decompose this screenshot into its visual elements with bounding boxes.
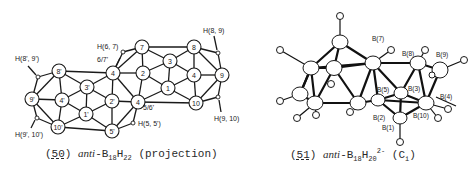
node-8: 8 [187, 40, 201, 54]
caption-51-prefix: anti [323, 148, 340, 160]
caption-50-b-sub: 18 [108, 154, 116, 162]
svg-text:3': 3' [84, 84, 89, 91]
caption-50-suffix: (projection) [138, 148, 217, 160]
label-b3: B(3) [408, 85, 420, 93]
label-h-8-9: H(8, 9) [203, 27, 224, 35]
hydrogen-atoms [277, 13, 468, 146]
node-10p: 10' [51, 120, 65, 134]
label-h-8p-9p: H(8', 9') [15, 55, 39, 63]
svg-text:2': 2' [109, 98, 114, 105]
label-h-9-10: H(9, 10) [214, 115, 239, 123]
node-9p: 9' [25, 92, 39, 106]
label-h-9p-10p: H(9', 10') [15, 131, 43, 139]
caption-51-h-sub: 20 [368, 155, 376, 163]
svg-text:10: 10 [192, 100, 200, 107]
label-b8: B(8) [402, 50, 414, 58]
svg-text:2: 2 [141, 70, 145, 77]
caption-51-close: ) [409, 149, 416, 161]
h-9-10-atom [216, 95, 220, 99]
svg-text:4: 4 [192, 72, 196, 79]
label-h-6-7: H(6, 7) [97, 43, 118, 51]
label-6-7p: 6/7' [97, 56, 108, 63]
svg-text:10': 10' [53, 124, 62, 131]
label-b4: B(4) [440, 93, 452, 101]
caption-51-charge: 2- [377, 147, 385, 155]
node-3: 3 [163, 54, 177, 68]
svg-text:7: 7 [140, 44, 144, 51]
svg-text:9: 9 [220, 72, 224, 79]
svg-text:1': 1' [83, 111, 88, 118]
node-2p: 2' [105, 94, 119, 108]
svg-text:4: 4 [136, 99, 140, 106]
label-b2: B(2) [373, 114, 385, 122]
svg-text:9': 9' [29, 96, 34, 103]
label-b10: B(10) [413, 112, 429, 120]
node-3p: 3' [80, 80, 94, 94]
caption-50-h-sub: 22 [123, 154, 131, 162]
svg-text:1: 1 [166, 85, 170, 92]
cluster-edges [32, 47, 222, 131]
svg-text:8: 8 [192, 44, 196, 51]
label-b1: B(1) [382, 124, 394, 132]
svg-text:4': 4' [59, 97, 64, 104]
label-5-6p: 5/6' [143, 104, 154, 111]
node-10: 10 [189, 96, 203, 110]
annotation-labels: H(8, 9) H(9, 10) H(6, 7) 6/7' 5/6' H(5, … [15, 27, 239, 139]
node-1: 1 [161, 81, 175, 95]
node-4: 4 [187, 68, 201, 82]
label-b7: B(7) [372, 35, 384, 43]
svg-text:8': 8' [56, 68, 61, 75]
node-5p: 5' [105, 124, 119, 138]
structure-diagram-51: B(7) B(8) B(9) B(5) B(3) B(4) B(2) B(10)… [277, 13, 468, 146]
caption-50-b: -B [95, 148, 108, 160]
node-4p: 4' [55, 93, 69, 107]
h-8p-9p-atom [36, 75, 40, 79]
label-h-5-5p: H(5, 5') [138, 120, 161, 128]
svg-text:4: 4 [111, 70, 115, 77]
node-1p: 1' [79, 107, 93, 121]
h-8-9-atom [216, 51, 220, 55]
node-2: 2 [136, 66, 150, 80]
caption-51: (51) anti-B18H202- (Ci) [290, 147, 416, 163]
caption-50-prefix: anti [78, 147, 95, 159]
h-5-5p-atom [131, 121, 135, 125]
svg-text:3: 3 [168, 58, 172, 65]
svg-text:5': 5' [109, 128, 114, 135]
h-9p-10p-atom [35, 116, 39, 120]
caption-51-b-sub: 18 [353, 155, 361, 163]
node-7: 7 [135, 40, 149, 54]
h-6-7-atom [121, 50, 125, 54]
caption-51-symmetry: (C [392, 149, 405, 161]
caption-50: (50) anti-B18H22 (projection) [45, 147, 218, 162]
node-8p: 8' [52, 64, 66, 78]
label-b9: B(9) [436, 51, 448, 59]
compound-number-51: 51 [297, 149, 310, 161]
node-9: 9 [215, 68, 229, 82]
compound-number-50: 50 [52, 148, 65, 160]
node-6-7p: 4 [106, 66, 120, 80]
label-b5: B(5) [377, 86, 389, 94]
caption-51-b: -B [340, 149, 353, 161]
